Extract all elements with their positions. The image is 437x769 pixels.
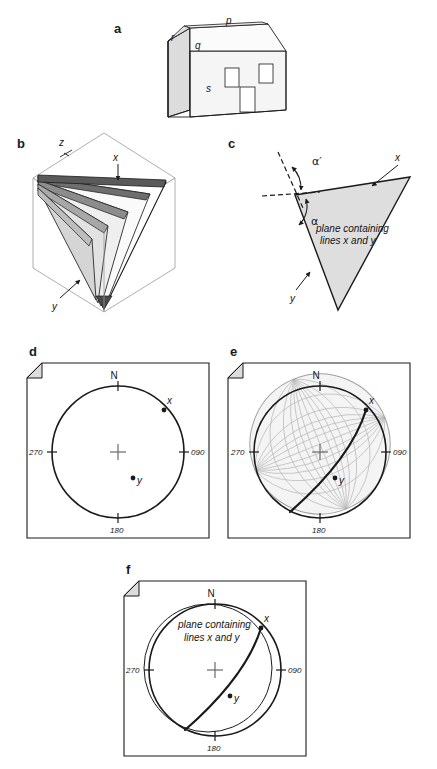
stereonet-e-label-x: x [368,395,375,406]
stereonet-d-label-south: 180 [110,526,124,535]
stereonet-e-label-north: N [312,370,319,381]
stereonet-d-point-y [131,476,136,481]
stereonet-f-label-west: 270 [125,666,140,675]
panel-f-letter: f [126,562,131,577]
house-label-p: p [225,15,232,26]
plane-caption-line1: plane containing [315,223,389,234]
stereonet-d-label-north: N [110,370,117,381]
stereonet-f-label-south: 180 [207,744,221,753]
angle-alpha-prime-label: α′ [312,155,322,168]
cube-label-z: z [58,137,64,148]
panel-c-letter: c [228,136,235,151]
panel-d-letter: d [29,344,37,359]
panel-b-letter: b [17,136,25,151]
stereonet-d-label-x: x [166,395,173,406]
cube-label-x: x [112,152,119,163]
stereonet-f-caption-line2: lines x and y [184,632,241,643]
stereonet-e-label-west: 270 [230,448,245,457]
house-label-q: q [195,40,201,51]
house-window-left [225,68,239,87]
panel-e: e [228,344,411,538]
stereonet-d-label-west: 270 [28,448,43,457]
stereonet-e-label-east: 090 [393,448,407,457]
stereonet-d-label-east: 090 [191,448,205,457]
plane-label-x: x [394,152,401,163]
stereonet-e-point-x [364,408,369,413]
cube-label-y: y [51,301,58,312]
plane-label-y: y [289,293,296,304]
house-window-right [259,64,273,83]
stereonet-f-point-x [259,626,264,631]
stereonet-f-label-y: y [233,693,240,704]
stereonet-e-label-south: 180 [312,526,326,535]
stereonet-f-point-y [228,694,233,699]
plane-caption-line2: lines x and y [320,235,377,246]
stereonet-d-point-x [162,408,167,413]
stereonet-d-label-y: y [136,475,143,486]
house-label-s: s [206,83,211,94]
stereonet-f-label-north: N [207,588,214,599]
figure-container: a p q r s b [0,0,437,769]
figure-svg: a p q r s b [0,0,437,769]
stereonet-e-label-y: y [338,475,345,486]
panel-e-letter: e [230,344,237,359]
stereonet-f-label-east: 090 [288,666,302,675]
stereonet-f-caption-line1: plane containing [177,619,251,630]
house-door [240,87,255,112]
panel-d: d N 090 180 270 x y [27,344,209,538]
panel-f: f N 090 180 270 x y plane containing lin… [124,562,306,756]
stereonet-e-point-y [333,476,338,481]
stereonet-f-label-x: x [263,613,270,624]
panel-a-letter: a [114,21,122,36]
